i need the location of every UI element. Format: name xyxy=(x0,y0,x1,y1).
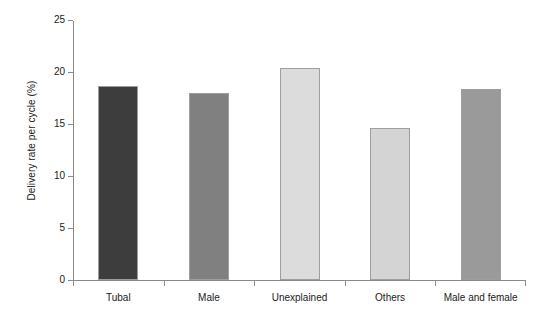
bar-fill xyxy=(280,68,320,280)
x-tick xyxy=(435,281,436,286)
y-axis-line xyxy=(73,21,74,281)
y-tick-mark xyxy=(68,20,73,21)
bar-fill xyxy=(98,86,138,280)
y-axis-title: Delivery rate per cycle (%) xyxy=(21,0,43,281)
bar xyxy=(280,68,320,280)
y-tick-label: 20 xyxy=(54,65,65,78)
y-tick-label: 10 xyxy=(54,169,65,182)
x-axis-line xyxy=(73,280,526,281)
bar xyxy=(98,86,138,280)
bar-fill xyxy=(370,128,410,280)
x-tick xyxy=(254,281,255,286)
bar-fill xyxy=(461,89,501,280)
bar xyxy=(189,93,229,280)
y-tick: 15 xyxy=(39,124,73,125)
x-tick xyxy=(525,281,526,286)
y-tick-label: 0 xyxy=(59,273,65,286)
y-tick-mark xyxy=(68,72,73,73)
plot-area: 0510152025 xyxy=(73,21,526,281)
y-tick: 0 xyxy=(39,280,73,281)
bar xyxy=(370,128,410,280)
y-tick-mark xyxy=(68,124,73,125)
y-tick: 25 xyxy=(39,20,73,21)
x-tick-label: Male xyxy=(198,292,220,303)
y-tick-label: 5 xyxy=(59,221,65,234)
bar xyxy=(461,89,501,280)
x-tick xyxy=(345,281,346,286)
x-tick-label: Tubal xyxy=(106,292,131,303)
y-tick-label: 15 xyxy=(54,117,65,130)
chart-figure: Delivery rate per cycle (%) 0510152025 T… xyxy=(0,0,556,319)
y-tick-mark xyxy=(68,176,73,177)
y-tick: 5 xyxy=(39,228,73,229)
x-tick xyxy=(73,281,74,286)
y-tick: 20 xyxy=(39,72,73,73)
x-tick-label: Unexplained xyxy=(272,292,328,303)
x-tick-label: Others xyxy=(375,292,405,303)
y-tick-label: 25 xyxy=(54,13,65,26)
x-tick-label: Male and female xyxy=(444,292,518,303)
y-tick: 10 xyxy=(39,176,73,177)
y-axis-title-text: Delivery rate per cycle (%) xyxy=(27,81,38,201)
y-tick-mark xyxy=(68,228,73,229)
x-tick xyxy=(164,281,165,286)
bar-fill xyxy=(189,93,229,280)
